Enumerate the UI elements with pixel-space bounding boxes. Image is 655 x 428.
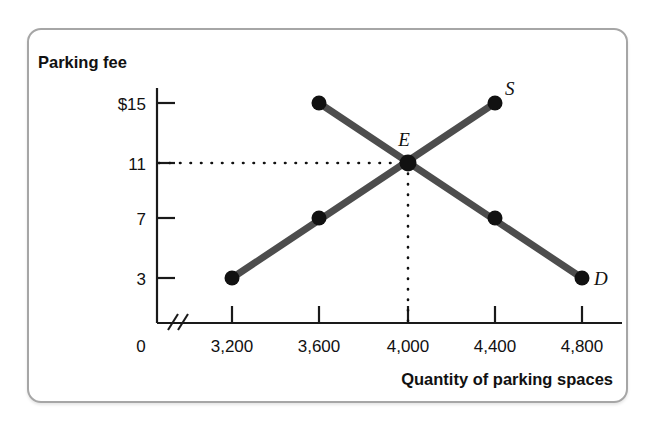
- supply-point-3200: [225, 271, 240, 286]
- x-tick-label-4800: 4,800: [561, 337, 604, 356]
- x-tick-label-4000: 4,000: [387, 337, 430, 356]
- x-tick-label-4400: 4,400: [474, 337, 517, 356]
- supply-curve-label: S: [505, 78, 515, 99]
- equilibrium-point: [400, 155, 417, 172]
- y-axis-title: Parking fee: [38, 53, 127, 71]
- x-tick-label-3600: 3,600: [298, 337, 341, 356]
- demand-point-4800: [575, 271, 590, 286]
- equilibrium-label: E: [397, 129, 410, 150]
- y-tick-label-3: 3: [137, 270, 146, 289]
- figure-root: $15 11 7 3 0 3,200 3,600 4,000 4,400 4,8…: [0, 0, 655, 428]
- origin-label: 0: [136, 337, 145, 356]
- supply-point-4400: [488, 96, 503, 111]
- x-tick-label-3200: 3,200: [211, 337, 254, 356]
- supply-demand-chart: $15 11 7 3 0 3,200 3,600 4,000 4,400 4,8…: [0, 0, 655, 428]
- y-tick-label-15: $15: [118, 95, 146, 114]
- y-tick-label-7: 7: [137, 210, 146, 229]
- demand-point-4400: [488, 211, 503, 226]
- supply-point-3600: [312, 211, 327, 226]
- demand-curve-label: D: [593, 268, 608, 289]
- x-axis-title: Quantity of parking spaces: [401, 370, 613, 388]
- y-tick-label-11: 11: [128, 155, 146, 174]
- demand-point-3600: [312, 96, 327, 111]
